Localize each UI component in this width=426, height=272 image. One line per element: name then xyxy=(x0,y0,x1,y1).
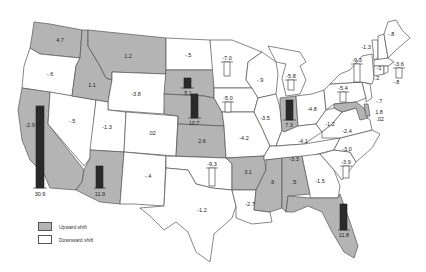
state-ri xyxy=(384,66,388,74)
label-mo: -4.2 xyxy=(239,135,248,141)
label-ma: -3.6 xyxy=(394,61,403,67)
bar-ma xyxy=(396,68,402,78)
bar-ia xyxy=(225,102,231,112)
label-tn: -3.3 xyxy=(289,156,298,162)
label-al: .5 xyxy=(292,179,297,185)
label-sc: -3.9 xyxy=(341,159,350,165)
label-ar: 3.1 xyxy=(244,169,252,175)
label-id: 1.1 xyxy=(88,82,96,88)
label-ne: 10.7 xyxy=(189,120,200,126)
label-ga: -1.5 xyxy=(315,178,324,184)
state-vt xyxy=(372,40,378,60)
state-nm xyxy=(120,152,166,206)
label-wv: -1.2 xyxy=(325,121,334,127)
label-de: .02 xyxy=(376,116,384,122)
label-ok: -9.3 xyxy=(207,161,216,167)
label-nv: -.5 xyxy=(69,118,75,124)
label-il: -3.5 xyxy=(260,115,269,121)
label-ia: -5.0 xyxy=(223,95,232,101)
label-sd: 5.1 xyxy=(184,90,192,96)
label-mn: -7.0 xyxy=(222,55,231,61)
bar-mi xyxy=(288,80,294,90)
label-nh: -1 xyxy=(377,65,382,71)
label-mt: 1.2 xyxy=(124,53,132,59)
label-ct: -.2 xyxy=(373,75,379,81)
bar-mn xyxy=(224,62,230,76)
legend-label-downward: Downward shift xyxy=(59,237,93,243)
label-ky: -4.1 xyxy=(298,138,307,144)
label-az: 11.9 xyxy=(95,191,105,197)
label-oh: -4.8 xyxy=(307,106,316,112)
label-wa: 4.7 xyxy=(56,37,64,43)
bar-pa xyxy=(340,92,346,102)
bar-ok xyxy=(209,168,215,186)
label-or: -.6 xyxy=(47,71,53,77)
label-la: -2.7 xyxy=(245,201,254,207)
bar-ny xyxy=(354,64,360,82)
bar-sd xyxy=(184,78,191,88)
label-ca-inset: -2.9 xyxy=(25,122,34,128)
label-me: -.8 xyxy=(388,31,394,37)
map-legend: Upward shift Downward shift xyxy=(38,220,93,246)
state-ia xyxy=(214,88,258,112)
label-ms: .6 xyxy=(270,179,275,185)
label-nc: -3.0 xyxy=(342,146,351,152)
label-co: .02 xyxy=(148,130,156,136)
legend-label-upward: Upward shift xyxy=(59,224,87,230)
label-ks: 2.6 xyxy=(198,138,206,144)
label-md: 1.8 xyxy=(375,109,383,115)
legend-swatch-downward xyxy=(38,235,52,244)
label-in: 7.3 xyxy=(285,122,293,128)
state-me xyxy=(384,20,410,58)
legend-upward: Upward shift xyxy=(38,220,93,233)
label-tx: -1.2 xyxy=(197,207,206,213)
label-ca: 30.9 xyxy=(35,191,46,197)
label-ut: -1.3 xyxy=(102,124,111,130)
label-wi: -.9 xyxy=(257,77,263,83)
label-nj: -.7 xyxy=(376,98,382,104)
label-mi: -5.8 xyxy=(286,73,295,79)
label-ri: -.8 xyxy=(393,79,399,85)
bar-ne xyxy=(191,94,198,118)
label-pa: -5.4 xyxy=(338,85,347,91)
bar-az xyxy=(96,166,103,188)
bar-sc xyxy=(343,166,349,178)
label-va: -2.4 xyxy=(342,128,351,134)
label-vt: -1.3 xyxy=(361,44,370,50)
bar-fl xyxy=(340,204,347,230)
bar-in xyxy=(286,100,293,120)
label-fl: 11.8 xyxy=(339,232,349,238)
legend-swatch-upward xyxy=(38,222,52,231)
label-ny: -9.3 xyxy=(352,57,361,63)
label-wy: -3.8 xyxy=(131,91,140,97)
label-nm: -.4 xyxy=(145,173,151,179)
legend-downward: Downward shift xyxy=(38,233,93,246)
label-nd: -.5 xyxy=(185,52,191,58)
bar-ca xyxy=(36,106,44,188)
